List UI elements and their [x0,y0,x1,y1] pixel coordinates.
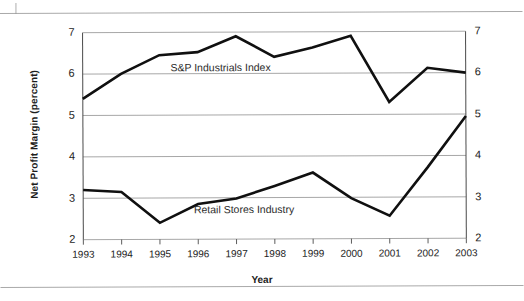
series-label-1: S&P Industrials Index [170,61,270,73]
x-tick-1999: 1999 [293,249,333,259]
y-tick-left-3: 3 [53,192,75,203]
x-tick-2003: 2003 [446,248,486,258]
x-tick-2001: 2001 [370,248,410,258]
x-tick-2000: 2000 [331,249,371,259]
x-tick-1995: 1995 [140,249,180,259]
series-line-1 [83,35,466,103]
y-tick-right-2: 2 [475,232,497,243]
y-tick-left-4: 4 [53,151,75,162]
series-lines [83,35,467,223]
y-tick-right-7: 7 [475,25,497,36]
y-tick-right-4: 4 [475,149,497,160]
x-tick-1993: 1993 [63,250,103,260]
x-tick-1997: 1997 [217,249,257,259]
x-tick-1994: 1994 [102,249,142,259]
plot-area: 234567 234567 19931994199519961997199819… [0,0,524,301]
y-tick-left-5: 5 [53,110,75,121]
y-tick-left-2: 2 [53,234,75,245]
y-tick-right-6: 6 [475,66,497,77]
series-label-2: Retail Stores Industry [194,203,294,215]
y-tick-right-3: 3 [475,191,497,202]
x-tick-2002: 2002 [408,248,448,258]
y-tick-left-6: 6 [53,68,75,79]
y-tick-right-5: 5 [475,108,497,119]
x-tick-1996: 1996 [178,249,218,259]
y-tick-left-7: 7 [53,27,75,38]
x-tick-1998: 1998 [255,249,295,259]
scanned-figure: Net Profit Margin (percent) Year 234567 … [0,0,524,301]
